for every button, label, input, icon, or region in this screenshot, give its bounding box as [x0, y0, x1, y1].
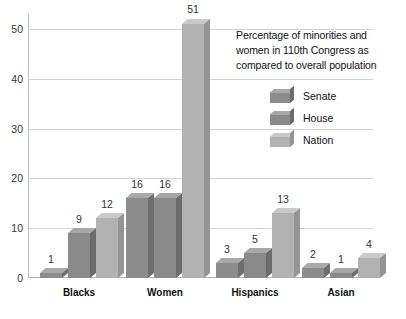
bar-front-face: [40, 273, 62, 278]
bar-asian-house: 1: [330, 267, 352, 278]
bar-value-label: 16: [131, 179, 143, 190]
legend-label-house: House: [303, 112, 333, 124]
bar-front-face: [216, 263, 238, 278]
category-label-blacks: Blacks: [63, 287, 95, 298]
y-tick-label-30: 30: [11, 123, 23, 134]
bar-front-face: [96, 218, 118, 278]
category-label-asian: Asian: [327, 287, 354, 298]
y-tick-label-40: 40: [11, 74, 23, 85]
bar-front-face: [244, 253, 266, 278]
bar-value-label: 16: [159, 179, 171, 190]
bar-front-face: [182, 24, 204, 278]
y-tick-label-10: 10: [11, 223, 23, 234]
legend-item-senate[interactable]: Senate: [270, 85, 406, 107]
category-label-hispanics: Hispanics: [231, 287, 278, 298]
y-axis-line: [28, 14, 29, 278]
bar-blacks-senate: 1: [40, 267, 62, 278]
legend-item-house[interactable]: House: [270, 107, 406, 129]
legend-swatch-senate: [270, 89, 294, 103]
bar-front-face: [330, 273, 352, 278]
bar-side-face: [380, 253, 386, 278]
swatch-side-face: [290, 129, 294, 146]
y-tick-label-20: 20: [11, 173, 23, 184]
bar-group-women: 161651Women: [126, 14, 208, 278]
legend-swatch-nation: [270, 133, 294, 147]
bar-hispanics-senate: 3: [216, 257, 238, 278]
bar-value-label: 4: [366, 239, 372, 250]
bar-front-face: [358, 258, 380, 278]
bar-hispanics-nation: 13: [272, 207, 294, 278]
bar-blacks-house: 9: [68, 227, 90, 278]
bar-value-label: 1: [48, 254, 54, 265]
legend-caption: Percentage of minorities and women in 11…: [236, 28, 406, 73]
bar-asian-senate: 2: [302, 262, 324, 278]
legend-caption-line-2: women in 110th Congress as: [236, 43, 406, 58]
legend-swatch-house: [270, 111, 294, 125]
bar-side-face: [118, 213, 124, 278]
bar-asian-nation: 4: [358, 252, 380, 278]
bar-value-label: 3: [224, 244, 230, 255]
swatch-front-face: [270, 114, 290, 125]
bar-value-label: 5: [252, 234, 258, 245]
legend-label-nation: Nation: [303, 134, 333, 146]
bar-front-face: [126, 198, 148, 278]
bar-side-face: [204, 19, 210, 278]
bar-front-face: [302, 268, 324, 278]
chart-legend: Percentage of minorities and women in 11…: [236, 28, 406, 151]
category-label-women: Women: [147, 287, 183, 298]
bar-front-face: [154, 198, 176, 278]
legend-caption-line-1: Percentage of minorities and: [236, 28, 406, 43]
swatch-side-face: [290, 85, 294, 102]
y-tick-label-0: 0: [17, 273, 23, 284]
swatch-front-face: [270, 92, 290, 103]
legend-item-nation[interactable]: Nation: [270, 129, 406, 151]
legend-caption-line-3: compared to overall population: [236, 58, 406, 73]
bar-value-label: 12: [101, 199, 113, 210]
swatch-front-face: [270, 136, 290, 147]
legend-item-list: SenateHouseNation: [236, 85, 406, 151]
legend-label-senate: Senate: [303, 90, 336, 102]
bar-chart: 01020304050 1912Blacks161651Women3513His…: [0, 0, 406, 319]
bar-group-blacks: 1912Blacks: [40, 14, 122, 278]
bar-blacks-nation: 12: [96, 212, 118, 278]
swatch-side-face: [290, 107, 294, 124]
bar-value-label: 51: [187, 4, 199, 15]
bar-women-nation: 51: [182, 18, 204, 278]
bar-side-face: [294, 208, 300, 278]
bar-front-face: [272, 213, 294, 278]
bar-value-label: 13: [277, 194, 289, 205]
bar-value-label: 9: [76, 214, 82, 225]
bar-women-house: 16: [154, 192, 176, 278]
bar-value-label: 1: [338, 254, 344, 265]
bar-women-senate: 16: [126, 192, 148, 278]
bar-hispanics-house: 5: [244, 247, 266, 278]
bar-value-label: 2: [310, 249, 316, 260]
y-tick-label-50: 50: [11, 24, 23, 35]
bar-front-face: [68, 233, 90, 278]
